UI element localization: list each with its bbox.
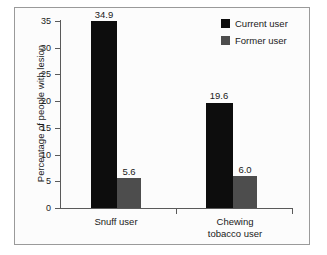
legend-item-former-user[interactable]: Former user (221, 33, 288, 47)
chart-figure: Percentage of people with lesion 0 5 10 … (0, 0, 327, 255)
y-tick-15 (55, 128, 60, 129)
chart-legend: Current user Former user (221, 16, 288, 50)
bar-value-snuff-former: 5.6 (110, 166, 148, 177)
x-tick-separator (176, 208, 177, 214)
legend-label-former-user: Former user (235, 35, 287, 46)
bar-snuff-former-user[interactable] (117, 178, 141, 208)
y-tick-label-35: 35 (41, 17, 51, 26)
legend-label-current-user: Current user (235, 18, 288, 29)
y-tick-label-25: 25 (41, 70, 51, 79)
bar-value-chewing-current: 19.6 (200, 90, 238, 101)
y-axis-line (60, 20, 61, 209)
legend-item-current-user[interactable]: Current user (221, 16, 288, 30)
x-group-label-chewing-tobacco-user: Chewing tobacco user (186, 216, 284, 240)
bar-value-snuff-current: 34.9 (85, 9, 123, 20)
y-tick-20 (55, 101, 60, 102)
y-tick-5 (55, 181, 60, 182)
y-tick-0 (55, 208, 60, 209)
legend-swatch-current-user-icon (221, 19, 230, 28)
y-tick-10 (55, 155, 60, 156)
bar-chewing-current-user[interactable] (206, 103, 233, 208)
legend-swatch-former-user-icon (221, 36, 230, 45)
plot-area: Percentage of people with lesion 0 5 10 … (0, 0, 327, 255)
y-tick-30 (55, 48, 60, 49)
y-tick-label-5: 5 (46, 177, 51, 186)
y-tick-label-20: 20 (41, 97, 51, 106)
y-tick-35 (55, 21, 60, 22)
bar-chewing-former-user[interactable] (233, 176, 257, 208)
bar-snuff-current-user[interactable] (91, 21, 117, 208)
y-tick-25 (55, 74, 60, 75)
x-group-label-snuff-user: Snuff user (70, 216, 162, 228)
y-tick-label-30: 30 (41, 44, 51, 53)
y-tick-label-15: 15 (41, 124, 51, 133)
y-tick-label-10: 10 (41, 151, 51, 160)
y-tick-label-0: 0 (46, 204, 51, 213)
bar-value-chewing-former: 6.0 (226, 164, 264, 175)
x-tick-end (292, 208, 293, 214)
